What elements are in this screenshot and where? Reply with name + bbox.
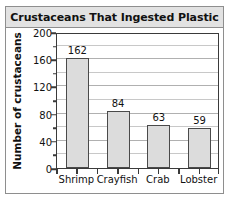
plot-area: 162846359 bbox=[56, 33, 219, 169]
y-axis-tick-mark bbox=[51, 87, 56, 89]
bar-value-label: 63 bbox=[153, 112, 166, 123]
y-axis-tick-label: 160 bbox=[33, 55, 52, 66]
x-axis-tick-label: Lobster bbox=[180, 174, 217, 185]
bar-value-label: 84 bbox=[112, 98, 125, 109]
chart-figure: Crustaceans That Ingested Plastic Number… bbox=[5, 6, 224, 194]
chart-title: Crustaceans That Ingested Plastic bbox=[10, 11, 218, 24]
y-axis-tick-labels: 04080120160200 bbox=[26, 33, 54, 169]
bar-value-label: 59 bbox=[193, 115, 206, 126]
y-axis-tick-label: 200 bbox=[33, 28, 52, 39]
y-axis-tick-mark bbox=[53, 155, 56, 157]
y-axis-tick-mark bbox=[51, 32, 56, 34]
y-axis-tick-mark bbox=[53, 46, 56, 48]
y-axis-tick-mark bbox=[51, 59, 56, 61]
y-axis-tick-mark bbox=[53, 73, 56, 75]
y-axis-tick-mark bbox=[53, 127, 56, 129]
bar-value-label: 162 bbox=[68, 45, 87, 56]
chart-title-band: Crustaceans That Ingested Plastic bbox=[6, 7, 223, 28]
y-axis-tick-mark bbox=[51, 168, 56, 170]
y-axis-title-wrap: Number of crustaceans bbox=[8, 31, 26, 171]
y-axis-tick-mark bbox=[53, 100, 56, 102]
bar-series: 162846359 bbox=[57, 34, 218, 168]
x-axis-tick-label: Crab bbox=[146, 174, 170, 185]
x-axis-tick-label: Shrimp bbox=[59, 174, 95, 185]
y-axis-tick-label: 120 bbox=[33, 82, 52, 93]
bar-lobster bbox=[188, 128, 211, 168]
y-axis-tick-mark bbox=[51, 141, 56, 143]
y-axis-tick-mark bbox=[51, 114, 56, 116]
bar-crab bbox=[147, 125, 170, 168]
bar-shrimp bbox=[66, 58, 89, 168]
x-axis-tick-labels: ShrimpCrayfishCrabLobster bbox=[56, 174, 219, 188]
bar-crayfish bbox=[107, 111, 130, 168]
x-axis-tick-label: Crayfish bbox=[97, 174, 138, 185]
y-axis-title: Number of crustaceans bbox=[11, 32, 23, 170]
